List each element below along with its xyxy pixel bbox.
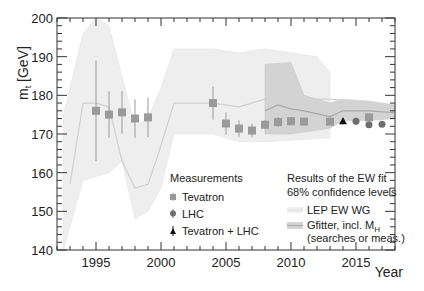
svg-text:LHC: LHC — [182, 208, 204, 220]
y-axis-label: mt [GeV] — [15, 46, 33, 100]
svg-text:68% confidence levels: 68% confidence levels — [287, 186, 397, 198]
x-tick-label: 2005 — [212, 255, 241, 270]
legend-measurements: Measurements Tevatron LHC Tevatron + LHC — [170, 172, 259, 237]
svg-text:Tevatron + LHC: Tevatron + LHC — [182, 225, 259, 237]
y-tick-label: 170 — [31, 127, 53, 142]
x-tick-label: 2000 — [147, 255, 176, 270]
square-marker-icon — [365, 113, 373, 121]
square-marker-icon — [222, 120, 230, 128]
square-marker-icon — [209, 99, 217, 107]
y-tick-label: 180 — [31, 88, 53, 103]
x-tick-label: 1995 — [82, 255, 111, 270]
square-marker-icon — [131, 115, 139, 123]
triangle-marker-icon — [170, 228, 176, 234]
circle-marker-icon — [379, 121, 386, 128]
y-tick-label: 140 — [31, 243, 53, 258]
square-marker-icon — [248, 127, 256, 135]
square-marker-icon — [235, 125, 243, 133]
circle-marker-icon — [353, 118, 360, 125]
legend-tevatron-lhc: Tevatron + LHC — [170, 225, 259, 237]
square-marker-icon — [144, 113, 152, 121]
circle-marker-icon — [170, 211, 176, 217]
legend-tevatron: Tevatron — [170, 191, 224, 203]
svg-text:Results of the EW fit: Results of the EW fit — [287, 172, 387, 184]
legend-title: Measurements — [170, 172, 243, 184]
square-marker-icon — [274, 118, 282, 126]
square-marker-icon — [300, 118, 308, 126]
square-marker-icon — [261, 121, 269, 129]
y-tick-label: 200 — [31, 11, 53, 26]
svg-text:Tevatron: Tevatron — [182, 191, 224, 203]
svg-text:(searches or meas.): (searches or meas.) — [307, 232, 405, 244]
top-mass-chart: 1995200020052010201514015016017018019020… — [0, 0, 424, 291]
square-marker-icon — [326, 118, 334, 126]
x-tick-label: 2015 — [342, 255, 371, 270]
square-marker-icon — [287, 117, 295, 125]
square-marker-icon — [118, 108, 126, 116]
y-tick-label: 150 — [31, 204, 53, 219]
y-tick-label: 190 — [31, 50, 53, 65]
y-tick-label: 160 — [31, 166, 53, 181]
x-axis-label: Year — [375, 264, 404, 280]
svg-text:LEP EW WG: LEP EW WG — [307, 204, 370, 216]
square-marker-icon — [105, 111, 113, 119]
circle-marker-icon — [366, 121, 373, 128]
square-marker-icon — [170, 194, 176, 200]
x-tick-label: 2010 — [277, 255, 306, 270]
legend-ew-fit: Results of the EW fit 68% confidence lev… — [287, 172, 405, 244]
square-marker-icon — [92, 107, 100, 115]
legend-lhc: LHC — [170, 208, 204, 220]
